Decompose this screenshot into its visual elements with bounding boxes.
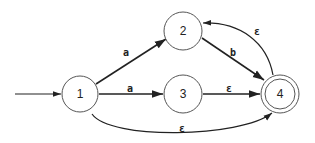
state-3: 3 <box>164 75 202 113</box>
state-label: 3 <box>180 87 187 101</box>
state-label: 1 <box>77 87 84 101</box>
nfa-diagram: a a b ε ε ε 1 2 3 4 <box>0 0 315 143</box>
transition-1-3: a <box>99 83 163 95</box>
state-label: 2 <box>180 24 187 38</box>
state-label: 4 <box>277 87 284 101</box>
transition-3-4: ε <box>203 83 260 95</box>
state-1: 1 <box>62 76 98 112</box>
transition-2-4: b <box>202 38 264 80</box>
transition-label: b <box>230 47 236 58</box>
transition-label: ε <box>226 83 232 94</box>
transition-4-2: ε <box>203 23 273 75</box>
transition-1-4: ε <box>92 113 272 134</box>
transition-1-2: a <box>96 39 166 84</box>
state-2: 2 <box>164 12 202 50</box>
transition-label: a <box>123 47 129 58</box>
transition-label: ε <box>179 123 185 134</box>
state-4-accepting: 4 <box>261 75 299 113</box>
transition-label: ε <box>254 26 260 37</box>
transition-label: a <box>127 83 133 94</box>
